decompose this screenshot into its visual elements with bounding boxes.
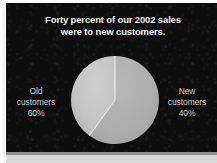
page-title: Forty percent of our 2002 sales were to … [18,14,208,37]
pie-label-new-name-line-1: New [157,86,217,97]
pie-chart-svg [70,55,160,145]
pie-label-new-name-line-2: customers [157,97,217,108]
pie-label-new-value: 40% [157,108,217,119]
pie-label-old-name-line-2: customers [8,97,64,108]
pie-label-old-value: 60% [8,108,64,119]
slide-panel: Forty percent of our 2002 sales were to … [6,3,217,152]
pie-label-old-customers: Old customers 60% [8,86,64,119]
bottom-edge-band-shadow [6,152,217,155]
page-title-line-2: were to new customers. [18,26,208,38]
slide-frame: Forty percent of our 2002 sales were to … [0,0,217,163]
pie-label-new-customers: New customers 40% [157,86,217,119]
pie-chart [70,55,160,145]
page-title-line-1: Forty percent of our 2002 sales [18,14,208,26]
pie-label-old-name-line-1: Old [8,86,64,97]
left-edge-rule [3,0,5,163]
